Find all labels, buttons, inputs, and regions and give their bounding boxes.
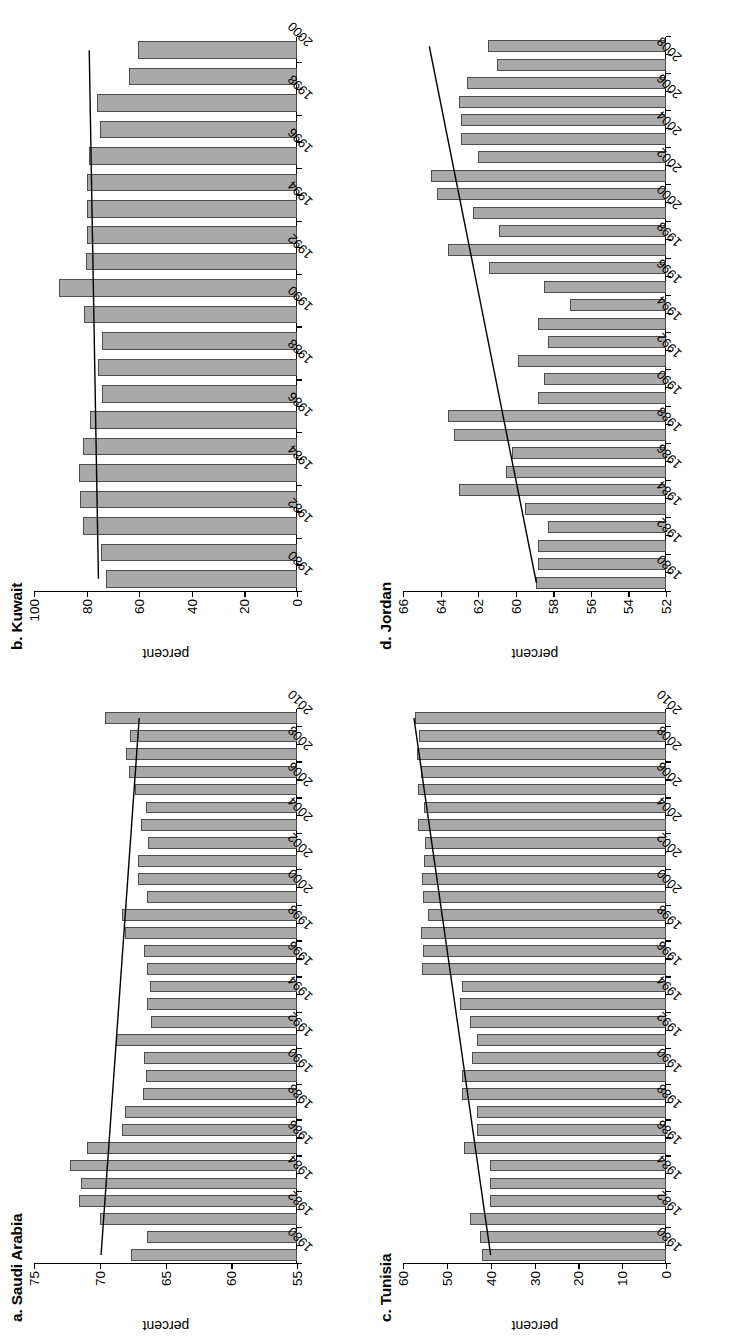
y-axis-title: percent bbox=[511, 646, 558, 662]
y-axis-tick-label: 65 bbox=[158, 1264, 173, 1286]
plot-area-tunisia: 0102030405060percent19801982198419861988… bbox=[403, 709, 666, 1264]
x-axis-tick bbox=[297, 274, 302, 275]
y-axis-title: percent bbox=[142, 1318, 189, 1334]
y-axis-tick-label: 60 bbox=[396, 1264, 411, 1286]
trend-line bbox=[34, 709, 297, 1264]
x-axis-tick bbox=[297, 538, 302, 539]
y-axis-tick-label: 80 bbox=[79, 592, 94, 614]
x-axis-tick bbox=[297, 326, 302, 327]
panel-title-saudi: a. Saudi Arabia bbox=[8, 1214, 26, 1322]
y-axis-tick-label: 58 bbox=[546, 592, 561, 614]
panel-kuwait: b. Kuwait 020406080100percent19801982198… bbox=[0, 0, 369, 672]
y-axis-tick-label: 40 bbox=[184, 592, 199, 614]
panel-jordan: d. Jordan 5254565860626466percent1980198… bbox=[369, 0, 738, 672]
panel-grid: a. Saudi Arabia 5560657075percent1980198… bbox=[0, 0, 738, 1344]
y-axis-tick-label: 60 bbox=[132, 592, 147, 614]
plot-area-jordan: 5254565860626466percent19801982198419861… bbox=[403, 37, 666, 592]
y-axis-tick-label: 0 bbox=[659, 1264, 674, 1279]
x-axis-tick bbox=[297, 115, 302, 116]
trend-line bbox=[403, 37, 666, 592]
trend-line bbox=[403, 709, 666, 1264]
y-axis-tick-label: 100 bbox=[27, 592, 42, 622]
y-axis-tick-label: 54 bbox=[621, 592, 636, 614]
panel-title-kuwait: b. Kuwait bbox=[8, 583, 26, 650]
y-axis-tick-label: 62 bbox=[471, 592, 486, 614]
x-axis-tick bbox=[297, 379, 302, 380]
figure-canvas: a. Saudi Arabia 5560657075percent1980198… bbox=[0, 0, 738, 1344]
plot-area-saudi: 5560657075percent19801982198419861988199… bbox=[34, 709, 297, 1264]
panel-saudi: a. Saudi Arabia 5560657075percent1980198… bbox=[0, 672, 369, 1344]
x-axis-tick bbox=[297, 432, 302, 433]
x-axis-tick bbox=[297, 1263, 302, 1264]
y-axis-tick-label: 40 bbox=[483, 1264, 498, 1286]
x-axis-tick bbox=[297, 62, 302, 63]
y-axis-tick-label: 52 bbox=[659, 592, 674, 614]
trend-line bbox=[34, 37, 297, 592]
y-axis-tick-label: 66 bbox=[396, 592, 411, 614]
y-axis-tick-label: 60 bbox=[224, 1264, 239, 1286]
x-axis-tick bbox=[297, 591, 302, 592]
y-axis-tick-label: 10 bbox=[615, 1264, 630, 1286]
x-axis-tick bbox=[666, 1263, 671, 1264]
panel-title-jordan: d. Jordan bbox=[377, 582, 395, 650]
panel-tunisia: c. Tunisia 0102030405060percent198019821… bbox=[369, 672, 738, 1344]
x-axis-tick bbox=[297, 485, 302, 486]
y-axis-tick-label: 64 bbox=[433, 592, 448, 614]
x-axis-tick bbox=[666, 591, 671, 592]
y-axis-tick-label: 20 bbox=[571, 1264, 586, 1286]
y-axis-tick-label: 70 bbox=[92, 1264, 107, 1286]
y-axis-tick-label: 0 bbox=[290, 592, 305, 607]
plot-area-kuwait: 020406080100percent198019821984198619881… bbox=[34, 37, 297, 592]
y-axis-title: percent bbox=[142, 646, 189, 662]
y-axis-tick-label: 56 bbox=[583, 592, 598, 614]
y-axis-tick-label: 60 bbox=[508, 592, 523, 614]
y-axis-tick-label: 20 bbox=[237, 592, 252, 614]
y-axis-tick-label: 50 bbox=[439, 1264, 454, 1286]
panel-title-tunisia: c. Tunisia bbox=[377, 1254, 395, 1322]
y-axis-title: percent bbox=[511, 1318, 558, 1334]
x-axis-tick bbox=[297, 221, 302, 222]
y-axis-tick-label: 55 bbox=[290, 1264, 305, 1286]
y-axis-tick-label: 75 bbox=[27, 1264, 42, 1286]
y-axis-tick-label: 30 bbox=[527, 1264, 542, 1286]
x-axis-tick bbox=[297, 168, 302, 169]
